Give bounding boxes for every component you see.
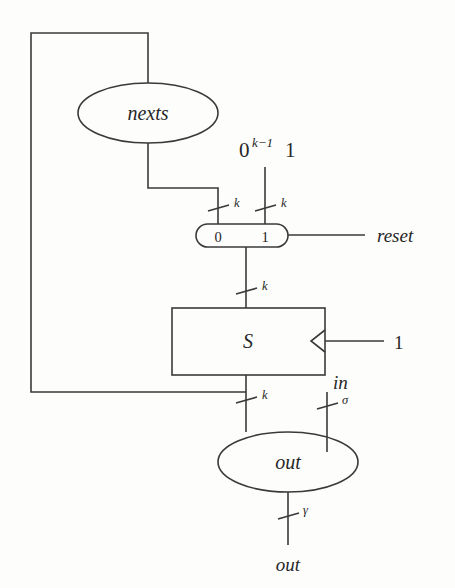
feedback-loop-wire (31, 33, 246, 392)
clock-notch-icon (311, 330, 325, 352)
mux-input-1-label: 1 (261, 229, 268, 245)
output-signal-group: γ out (276, 492, 309, 575)
input-signal-label: in (333, 372, 348, 393)
reset-constant-exponent: k−1 (252, 135, 273, 150)
reset-select-group: reset (288, 225, 414, 246)
clock-enable-group: 1 (325, 332, 404, 353)
nexts-node: nexts (78, 83, 218, 143)
mux-shape (196, 224, 288, 247)
reset-label: reset (377, 225, 414, 246)
input-signal-group: in σ (317, 372, 349, 452)
output-signal-label: out (276, 554, 301, 575)
out-node: out (218, 432, 358, 492)
reset-constant-base: 0 (239, 138, 250, 162)
input-alphabet-label: σ (342, 393, 349, 407)
state-to-out-wire: k (236, 375, 268, 432)
mux-node: 0 1 (196, 224, 288, 247)
mux-to-state-wire: k (236, 247, 268, 308)
bus-width-nexts-to-mux: k (234, 196, 240, 210)
nexts-label: nexts (127, 102, 168, 124)
bus-width-const-to-mux: k (281, 196, 287, 210)
state-box-label: S (243, 330, 253, 352)
bus-width-mux-to-state: k (262, 279, 268, 293)
nexts-to-mux-wire: k (148, 143, 240, 224)
output-alphabet-label: γ (303, 503, 309, 517)
circuit-diagram-canvas: nexts k 0 k−1 1 k 0 1 reset (0, 0, 455, 588)
clock-enable-label: 1 (394, 332, 404, 353)
circuit-svg: nexts k 0 k−1 1 k 0 1 reset (0, 0, 455, 588)
bus-width-state-to-out: k (262, 388, 268, 402)
out-ellipse-label: out (275, 451, 301, 473)
state-register-node: S (172, 308, 325, 375)
reset-constant-suffix: 1 (285, 138, 296, 162)
reset-constant-group: 0 k−1 1 k (239, 135, 296, 224)
mux-input-0-label: 0 (214, 229, 221, 245)
